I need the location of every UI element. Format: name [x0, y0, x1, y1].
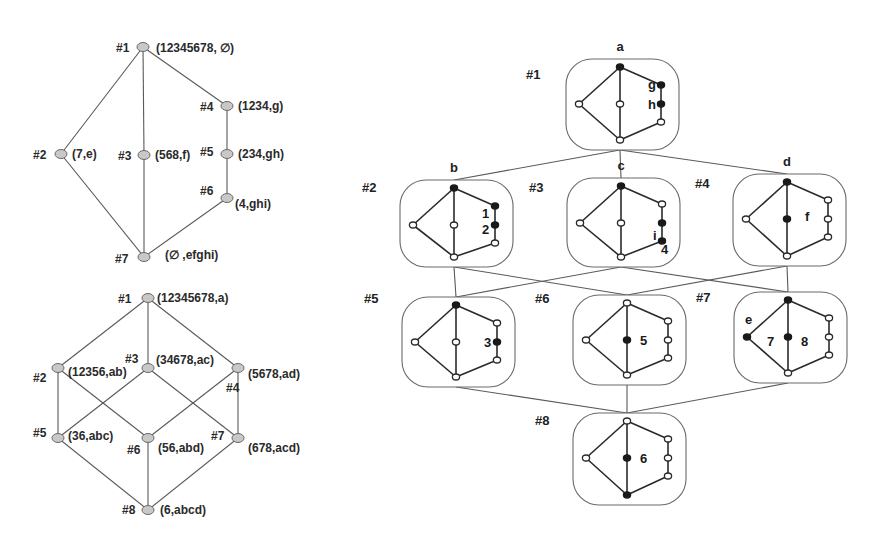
vertex-label: 4	[661, 242, 669, 257]
node-id-label: #8	[122, 503, 136, 517]
lattice-node	[142, 506, 154, 515]
vertex-label: 7	[767, 334, 774, 349]
node-concept-label: (12356,ab)	[68, 365, 127, 379]
graph-vertex	[491, 240, 498, 246]
node-id-label: #2	[33, 371, 47, 385]
lattice-node	[137, 43, 149, 52]
lattice-node	[221, 150, 233, 159]
graph-vertex	[582, 455, 589, 461]
node-id-label: #1	[118, 292, 132, 306]
graph-vertex	[657, 119, 664, 125]
graph-vertex-filled	[491, 203, 498, 209]
node-concept-label: (12345678,a)	[157, 291, 228, 305]
vertex-label: 2	[482, 222, 489, 237]
node-id-label: #4	[226, 381, 240, 395]
node-concept-label: (1234,g)	[238, 99, 283, 113]
vertex-label: 5	[640, 333, 647, 348]
graph-vertex	[452, 339, 459, 345]
node-concept-label: (4,ghi)	[235, 197, 271, 211]
lattice-node	[232, 434, 244, 443]
graph-box-5: #53	[364, 291, 515, 387]
lattice-edge	[61, 47, 143, 154]
graph-vertex	[617, 254, 624, 260]
lattice-connection	[454, 150, 620, 180]
node-id-label: #3	[125, 352, 139, 366]
graph-box-8: #86	[535, 413, 686, 505]
graph-vertex	[450, 222, 457, 228]
graph-box-6: #65	[535, 291, 686, 385]
graph-vertex	[623, 418, 630, 424]
graph-vertex	[742, 216, 749, 222]
node-id-label: #1	[116, 41, 130, 55]
lattice-edge	[143, 47, 144, 155]
graph-box-7: #7e78	[696, 290, 847, 383]
vertex-label: e	[745, 312, 752, 327]
lattice-node	[221, 194, 233, 203]
node-id-label: #5	[200, 145, 214, 159]
lattice-node	[138, 151, 150, 160]
node-id-label: #3	[118, 149, 132, 163]
node-id-label: #7	[115, 252, 129, 266]
graph-vertex	[623, 300, 630, 306]
graph-vertex-filled	[623, 337, 630, 343]
node-id-label: #4	[200, 100, 214, 114]
diagram-canvas: #1(12345678, ∅)#2(7,e)#3(568,f)#4(1234,g…	[0, 0, 875, 534]
graph-vertex	[409, 222, 416, 228]
lattice-connection	[456, 387, 627, 413]
node-id-label: #5	[33, 426, 47, 440]
lattice-node	[138, 253, 150, 262]
lattice-node	[52, 434, 64, 443]
lattice-node	[142, 434, 154, 443]
graph-vertex-filled	[623, 455, 630, 461]
graph-vertex	[784, 370, 791, 376]
node-concept-label: (∅ ,efghi)	[165, 248, 218, 262]
graph-box-1: #1agh	[526, 39, 679, 150]
graph-vertex-filled	[657, 101, 664, 107]
lattice-top: #1(12345678, ∅)#2(7,e)#3(568,f)#4(1234,g…	[33, 41, 284, 266]
graph-vertex	[824, 216, 831, 222]
graph-vertex	[783, 253, 790, 259]
graph-vertex	[824, 234, 831, 240]
vertex-label: i	[653, 228, 657, 243]
box-attribute-label: a	[616, 39, 624, 54]
box-id-label: #5	[364, 291, 378, 306]
graph-vertex	[824, 197, 831, 203]
graph-vertex	[664, 455, 671, 461]
node-concept-label: (234,gh)	[238, 147, 284, 161]
graph-vertex-filled	[784, 334, 791, 340]
graph-vertex	[825, 334, 832, 340]
graph-vertex	[664, 436, 671, 442]
vertex-label: 8	[801, 334, 808, 349]
node-concept-label: (36,abc)	[68, 429, 113, 443]
box-attribute-label: d	[783, 154, 791, 169]
box-id-label: #4	[695, 176, 710, 191]
graph-vertex-filled	[658, 220, 665, 226]
node-id-label: #6	[200, 184, 214, 198]
lattice-node	[221, 102, 233, 111]
lattice-node	[142, 294, 154, 303]
node-concept-label: (56,abd)	[158, 441, 204, 455]
box-id-label: #3	[529, 180, 543, 195]
vertex-label: 3	[484, 335, 491, 350]
node-concept-label: (7,e)	[72, 147, 97, 161]
graph-vertex	[664, 473, 671, 479]
vertex-label: f	[805, 209, 810, 224]
graph-vertex	[450, 254, 457, 260]
graph-vertex	[825, 315, 832, 321]
graph-box-3: #3ci4	[529, 158, 680, 267]
box-id-label: #7	[696, 290, 710, 305]
graph-vertex	[493, 357, 500, 363]
graph-vertex-filled	[784, 297, 791, 303]
graph-vertex-filled	[450, 185, 457, 191]
graph-box-2: #2b12	[362, 160, 513, 267]
lattice-node	[55, 150, 67, 159]
vertex-label: 1	[482, 206, 489, 221]
node-concept-label: (678,acd)	[248, 441, 300, 455]
graph-vertex	[575, 101, 582, 107]
box-attribute-label: b	[450, 160, 458, 175]
graph-vertex	[493, 320, 500, 326]
graph-vertex-filled	[491, 222, 498, 228]
lattice-edge	[61, 154, 144, 257]
graph-vertex-filled	[617, 183, 624, 189]
lattice-connection	[627, 383, 788, 413]
